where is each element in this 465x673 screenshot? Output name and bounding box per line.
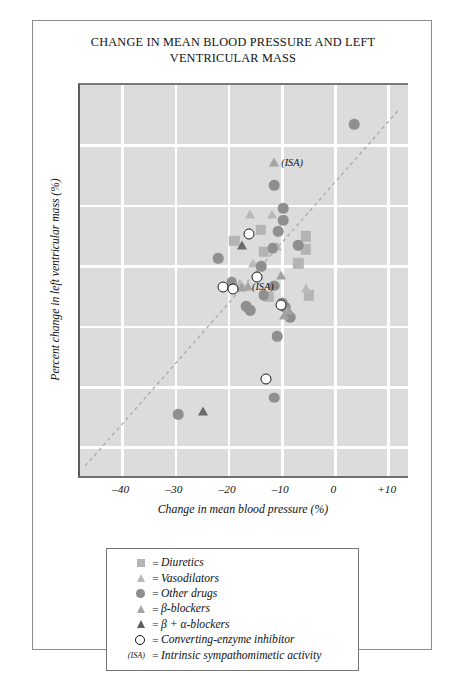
marker-other-drugs [258,290,269,301]
marker-other-drugs [269,180,280,191]
legend-label: Intrinsic sympathomimetic activity [161,649,321,662]
marker-other-drugs [349,119,360,130]
legend-row: =Vasodilators [116,570,349,585]
x-tick-label: –10 [272,483,289,495]
filled-triangle-mid-icon [137,605,145,613]
marker-converting-enzyme-inhibitor [244,228,255,239]
legend-label: β-blockers [161,602,210,615]
y-axis-title: Percent change in left ventricular mass … [49,83,65,476]
marker-beta-alpha-blockers [237,240,247,249]
x-axis-title: Change in mean blood pressure (%) [78,502,408,517]
figure-frame: CHANGE IN MEAN BLOOD PRESSURE AND LEFT V… [32,20,432,650]
gridline-horizontal [80,84,408,87]
marker-other-drugs [269,392,280,403]
filled-square-icon [137,559,145,567]
y-axis-title-text: Percent change in left ventricular mass … [49,83,62,476]
gridline-horizontal [80,265,408,268]
gridline-horizontal [80,446,408,449]
legend-key-marker [116,589,150,598]
gridline-horizontal [80,326,408,329]
open-circle-icon [135,635,145,645]
marker-converting-enzyme-inhibitor [261,373,272,384]
plot-area: (ISA)(ISA) [78,83,408,476]
legend-label: β + α-blockers [161,618,230,631]
marker-beta-alpha-blockers [198,407,208,416]
marker-other-drugs [173,409,184,420]
x-tick-label: +10 [377,483,396,495]
marker-diuretics [256,225,266,235]
legend-equals-sign: = [150,572,161,584]
legend-label: Other drugs [161,587,217,600]
legend-key-isa: (ISA) [116,651,150,660]
gridline-horizontal [80,386,408,389]
gridline-vertical [121,85,124,476]
legend: =Diuretics=Vasodilators=Other drugs=β-bl… [106,548,359,671]
gridline-zero [334,85,337,476]
gridline-vertical [387,85,390,476]
gridline-horizontal [80,205,408,208]
marker-other-drugs [267,243,278,254]
legend-row: =Converting-enzyme inhibitor [116,632,349,647]
legend-equals-sign: = [150,587,161,599]
x-tick-label: –20 [218,483,235,495]
legend-equals-sign: = [150,618,161,630]
legend-row: =Diuretics [116,555,349,570]
marker-other-drugs [213,253,224,264]
filled-triangle-light-icon [137,574,145,582]
marker-diuretics [293,258,303,268]
legend-key-marker [116,635,150,645]
legend-label: Diuretics [161,556,204,569]
legend-row: =Other drugs [116,586,349,601]
chart-title-line-2: VENTRICULAR MASS [33,51,433,67]
x-tick-label: 0 [331,483,337,495]
legend-equals-sign: = [150,557,161,569]
legend-equals-sign: = [150,634,161,646]
marker-beta-blockers [276,271,286,280]
legend-key-marker [116,605,150,613]
annotation-isa: (ISA) [281,157,303,168]
page-title: CHANGE IN MEAN BLOOD PRESSURE AND LEFT V… [33,35,433,66]
marker-other-drugs [272,331,283,342]
annotation-isa: (ISA) [252,280,274,291]
gridline-vertical [281,85,284,476]
x-tick-label: –40 [112,483,129,495]
legend-equals-sign: = [150,603,161,615]
marker-other-drugs [278,215,289,226]
legend-row: (ISA)=Intrinsic sympathomimetic activity [116,647,349,662]
marker-beta-blockers [269,158,279,167]
legend-key-marker [116,620,150,628]
x-tick-label: –30 [165,483,182,495]
marker-vasodilators [267,210,277,219]
marker-other-drugs [278,203,289,214]
marker-converting-enzyme-inhibitor [228,284,239,295]
legend-label: Converting-enzyme inhibitor [161,633,295,646]
legend-row: =β + α-blockers [116,617,349,632]
marker-diuretics [300,231,310,241]
marker-converting-enzyme-inhibitor [276,300,287,311]
marker-other-drugs [245,305,256,316]
filled-circle-icon [136,589,145,598]
filled-triangle-dark-icon [137,620,145,628]
marker-vasodilators [301,283,311,292]
legend-row: =β-blockers [116,601,349,616]
legend-key-marker [116,574,150,582]
legend-key-marker [116,559,150,567]
marker-other-drugs [273,226,284,237]
marker-other-drugs [256,261,267,272]
legend-equals-sign: = [150,649,161,661]
marker-other-drugs [293,240,304,251]
plot-region: (ISA)(ISA) [78,83,408,476]
marker-vasodilators [245,210,255,219]
legend-label: Vasodilators [161,572,219,585]
marker-converting-enzyme-inhibitor [217,281,228,292]
gridline-horizontal [80,144,408,147]
marker-beta-blockers [279,310,289,319]
chart-title-line-1: CHANGE IN MEAN BLOOD PRESSURE AND LEFT [33,35,433,51]
x-axis-line [78,476,408,478]
